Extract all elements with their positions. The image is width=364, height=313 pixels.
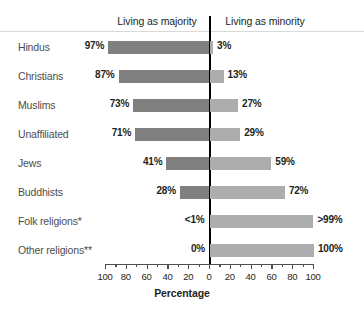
x-axis-tick-minor [261,264,262,267]
x-axis-tick-minor [178,264,179,267]
x-axis-tick-minor [303,264,304,267]
category-label: Unaffiliated [18,128,106,140]
bar-minority [210,215,313,228]
legend-label-majority: Living as majority [107,15,207,27]
x-axis-tick-major [105,264,106,269]
value-label-majority: 73% [110,98,129,109]
x-axis-title: Percentage [0,287,364,299]
category-label: Folk religions* [18,215,106,227]
bar-minority [210,186,285,199]
chart-row: Unaffiliated71%29% [0,121,364,150]
x-axis-tick-major [209,264,210,269]
x-axis-tick-major [230,264,231,269]
x-axis-tick-minor [199,264,200,267]
diverging-bar-chart: Living as majority Living as minority Hi… [0,0,364,313]
bar-majority [166,157,209,170]
bar-minority [210,128,240,141]
x-axis-tick-major [147,264,148,269]
bar-majority [135,128,209,141]
x-axis-tick-label: 100 [300,271,326,282]
value-label-minority: 29% [244,127,263,138]
bar-minority [210,70,224,83]
x-axis-tick-major [188,264,189,269]
bar-minority [210,99,238,112]
category-label: Christians [18,70,106,82]
x-axis-tick-minor [219,264,220,267]
value-label-majority: 87% [95,69,114,80]
bar-majority [119,70,209,83]
x-axis-tick-major [126,264,127,269]
bar-majority [108,41,209,54]
x-axis-tick-minor [240,264,241,267]
x-axis-tick-major [251,264,252,269]
category-label: Jews [18,157,106,169]
value-label-majority: 0% [191,243,205,254]
value-label-minority: >99% [317,214,342,225]
chart-row: Jews41%59% [0,150,364,179]
value-label-majority: 28% [156,185,175,196]
x-axis-tick-minor [282,264,283,267]
x-axis-tick-minor [115,264,116,267]
chart-row: Christians87%13% [0,63,364,92]
category-label: Buddhists [18,186,106,198]
chart-row: Folk religions*<1%>99% [0,208,364,237]
value-label-majority: 71% [112,127,131,138]
chart-rows: Hindus97%3%Christians87%13%Muslims73%27%… [0,34,364,266]
chart-row: Buddhists28%72% [0,179,364,208]
value-label-majority: <1% [185,214,205,225]
bar-minority [210,157,271,170]
value-label-majority: 97% [85,40,104,51]
category-label: Muslims [18,99,106,111]
x-axis-tick-major [271,264,272,269]
x-axis-tick-major [313,264,314,269]
value-label-majority: 41% [143,156,162,167]
value-label-minority: 3% [217,40,231,51]
chart-row: Muslims73%27% [0,92,364,121]
bar-majority [180,186,209,199]
value-label-minority: 100% [318,243,343,254]
legend-label-minority: Living as minority [213,15,317,27]
x-axis-tick-minor [157,264,158,267]
value-label-minority: 72% [289,185,308,196]
value-label-minority: 27% [242,98,261,109]
category-label: Other religions** [18,244,106,256]
x-axis-tick-major [292,264,293,269]
bar-minority [210,244,314,257]
chart-row: Hindus97%3% [0,34,364,63]
x-axis-tick-minor [136,264,137,267]
value-label-minority: 59% [275,156,294,167]
bar-majority [133,99,209,112]
bar-minority [210,41,213,54]
x-axis-tick-major [167,264,168,269]
value-label-minority: 13% [228,69,247,80]
header-divider-rule [0,31,364,32]
chart-row: Other religions**0%100% [0,237,364,266]
